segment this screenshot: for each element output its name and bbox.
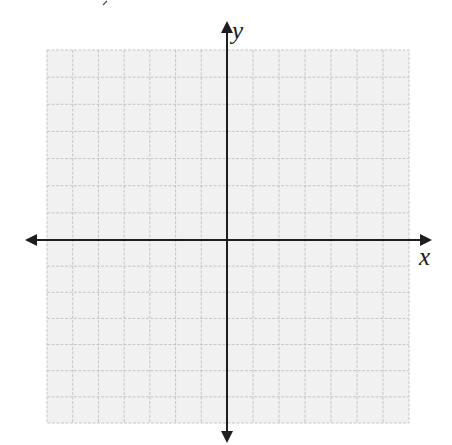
x-axis-left-arrow-icon: [25, 234, 37, 246]
clipped-text-fragment: [103, 1, 107, 5]
x-axis-label: x: [419, 244, 430, 269]
y-axis-down-arrow-icon: [221, 431, 233, 443]
y-axis-label: y: [232, 18, 243, 43]
coordinate-plane: y x: [0, 0, 452, 445]
coordinate-grid: [0, 0, 452, 445]
